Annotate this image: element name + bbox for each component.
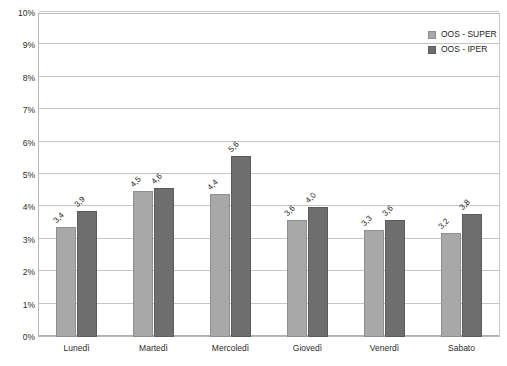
bar-chart: 0%1%2%3%4%5%6%7%8%9%10% 3,43,94,54,64,45… bbox=[0, 0, 507, 366]
bar-value-label: 4,5 bbox=[129, 176, 143, 190]
bar[interactable] bbox=[385, 220, 405, 337]
y-axis-tick-label: 0% bbox=[3, 333, 35, 342]
legend-swatch-iper-icon bbox=[428, 46, 436, 54]
bar-value-label: 3,3 bbox=[360, 215, 374, 229]
y-axis-tick-label: 8% bbox=[3, 74, 35, 83]
bar-group: 4,54,6 bbox=[133, 13, 174, 337]
bars-layer: 3,43,94,54,64,45,63,64,03,33,63,23,8 bbox=[38, 13, 500, 337]
y-axis-tick-label: 10% bbox=[3, 9, 35, 18]
bar-group: 3,43,9 bbox=[56, 13, 97, 337]
bar-value-label: 3,8 bbox=[458, 198, 472, 212]
bar[interactable] bbox=[462, 214, 482, 337]
bar[interactable] bbox=[154, 188, 174, 337]
y-axis-tick-label: 2% bbox=[3, 268, 35, 277]
bar-group: 4,45,6 bbox=[210, 13, 251, 337]
bar[interactable] bbox=[56, 227, 76, 337]
bar-value-label: 4,0 bbox=[304, 192, 318, 206]
bar-group: 3,33,6 bbox=[364, 13, 405, 337]
y-axis-tick-label: 7% bbox=[3, 106, 35, 115]
gridline bbox=[39, 11, 499, 12]
y-axis-tick-label: 6% bbox=[3, 138, 35, 147]
legend-label-iper: OOS - IPER bbox=[441, 45, 487, 54]
bar-value-label: 3,6 bbox=[283, 205, 297, 219]
bar-value-label: 3,6 bbox=[381, 205, 395, 219]
legend: OOS - SUPER OOS - IPER bbox=[428, 27, 497, 57]
x-axis-tick-label: Lunedì bbox=[64, 344, 90, 353]
y-axis-tick-label: 1% bbox=[3, 300, 35, 309]
x-axis-tick-label: Martedì bbox=[139, 344, 168, 353]
bar[interactable] bbox=[210, 194, 230, 337]
x-axis-tick-label: Mercoledì bbox=[212, 344, 249, 353]
bar-value-label: 5,6 bbox=[227, 140, 241, 154]
bar-value-label: 3,2 bbox=[437, 218, 451, 232]
bar-value-label: 4,6 bbox=[150, 172, 164, 186]
legend-swatch-super-icon bbox=[428, 31, 436, 39]
bar[interactable] bbox=[308, 207, 328, 337]
bar[interactable] bbox=[133, 191, 153, 337]
y-axis-tick-label: 4% bbox=[3, 203, 35, 212]
y-axis-tick-label: 5% bbox=[3, 171, 35, 180]
bar[interactable] bbox=[287, 220, 307, 337]
y-axis-tick-label: 3% bbox=[3, 236, 35, 245]
legend-item-super[interactable]: OOS - SUPER bbox=[428, 27, 497, 42]
x-axis-tick-label: Venerdì bbox=[370, 344, 399, 353]
x-axis-tick-label: Giovedì bbox=[293, 344, 322, 353]
bar[interactable] bbox=[77, 211, 97, 337]
bar[interactable] bbox=[231, 156, 251, 337]
bar[interactable] bbox=[441, 233, 461, 337]
legend-label-super: OOS - SUPER bbox=[441, 30, 497, 39]
bar-value-label: 3,9 bbox=[73, 195, 87, 209]
bar-value-label: 4,4 bbox=[206, 179, 220, 193]
bar[interactable] bbox=[364, 230, 384, 337]
bar-group: 3,23,8 bbox=[441, 13, 482, 337]
y-axis-tick-label: 9% bbox=[3, 41, 35, 50]
legend-item-iper[interactable]: OOS - IPER bbox=[428, 42, 497, 57]
x-axis-tick-label: Sabato bbox=[448, 344, 475, 353]
bar-group: 3,64,0 bbox=[287, 13, 328, 337]
bar-value-label: 3,4 bbox=[52, 211, 66, 225]
